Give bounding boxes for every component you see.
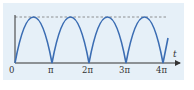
tick-label-2pi: 2π bbox=[82, 65, 93, 75]
tick-label-4pi: 4π bbox=[156, 65, 167, 75]
tick-label-0: 0 bbox=[9, 65, 14, 75]
chart-svg: 0 π 2π 3π 4π t bbox=[0, 0, 194, 90]
x-axis-label: t bbox=[173, 49, 177, 59]
tick-label-pi: π bbox=[48, 65, 54, 75]
abs-sine-curve bbox=[15, 17, 168, 63]
tick-label-3pi: 3π bbox=[119, 65, 130, 75]
